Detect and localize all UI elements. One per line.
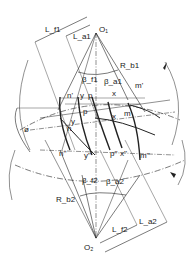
label-p1: p bbox=[88, 92, 92, 100]
label-y-mid: y bbox=[71, 118, 75, 126]
label-x2: x'' bbox=[120, 150, 127, 158]
label-y2: y'' bbox=[84, 152, 91, 160]
label-m1: m' bbox=[135, 82, 143, 90]
label-phi: ø bbox=[24, 126, 29, 134]
label-o2: O₂ bbox=[84, 244, 93, 252]
label-n2: n'' bbox=[59, 150, 67, 158]
label-la2: L_a2 bbox=[139, 218, 157, 226]
label-ba1: β_a1 bbox=[104, 78, 122, 86]
label-n-mid: n bbox=[67, 125, 71, 133]
label-la1: L_a1 bbox=[73, 33, 91, 41]
label-lf1: L_f1 bbox=[45, 26, 61, 34]
label-lf2: L_f2 bbox=[112, 226, 128, 234]
base-circle-2-arc bbox=[15, 160, 185, 181]
label-bf2: β_f2 bbox=[82, 177, 98, 185]
label-n1: n' bbox=[67, 92, 73, 100]
label-rb2: R_b2 bbox=[56, 196, 75, 204]
label-bf1: β_f1 bbox=[82, 76, 98, 84]
label-m-mid: m bbox=[124, 110, 131, 118]
label-ba2: β_a2 bbox=[106, 178, 124, 186]
label-x-mid: x bbox=[112, 113, 116, 121]
label-p2: p'' bbox=[110, 150, 118, 158]
label-x1: x bbox=[112, 90, 116, 98]
label-rb1: R_b1 bbox=[120, 62, 139, 70]
gear-geometry-diagram bbox=[0, 0, 193, 268]
label-m2: m'' bbox=[140, 152, 150, 160]
label-y1: y bbox=[80, 92, 84, 100]
label-o1: O₁ bbox=[99, 26, 108, 34]
label-p-mid: p bbox=[83, 108, 87, 116]
